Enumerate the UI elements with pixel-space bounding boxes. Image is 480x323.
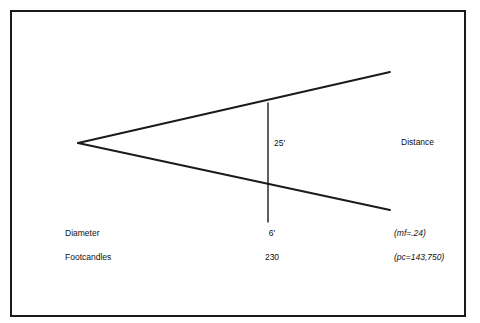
footcandles-row-label: Footcandles	[65, 253, 111, 262]
maintenance-factor-note: (mf=.24)	[394, 229, 426, 238]
diameter-row-label: Diameter	[65, 229, 99, 238]
lower-beam-edge-line	[78, 143, 390, 210]
beam-height-label: 25'	[274, 139, 285, 148]
footcandles-row-value: 230	[265, 253, 279, 262]
beam-spread-figure: 25' Distance Diameter 6' (mf=.24) Footca…	[0, 0, 480, 323]
diameter-row-value: 6'	[269, 229, 275, 238]
beam-diagram-svg	[0, 0, 480, 323]
distance-axis-label: Distance	[401, 138, 434, 147]
peak-candela-note: (pc=143,750)	[394, 253, 444, 262]
upper-beam-edge-line	[78, 72, 390, 143]
